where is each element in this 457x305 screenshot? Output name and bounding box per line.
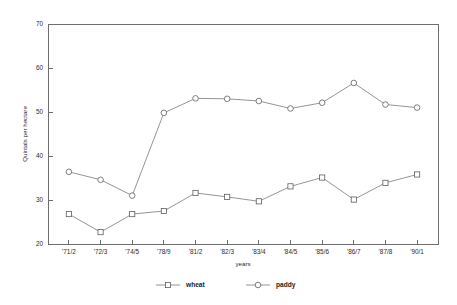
legend-item-paddy[interactable]: paddy (246, 281, 296, 289)
legend-marker-paddy (255, 282, 261, 288)
x-tick-label: '86/7 (347, 248, 361, 255)
y-tick-label: 20 (36, 240, 44, 247)
y-axis: 203040506070 (36, 20, 53, 247)
y-tick-label: 30 (36, 196, 44, 203)
data-point-paddy (98, 177, 104, 183)
x-tick-label: '78/9 (157, 248, 171, 255)
series-line-paddy (69, 83, 417, 196)
y-tick-label: 70 (36, 20, 44, 27)
data-point-wheat (161, 208, 166, 213)
x-axis-title: years (235, 260, 250, 267)
data-point-paddy (383, 102, 389, 108)
x-axis: '71/2'72/3'74/5'78/9'81/2'82/3'83/4'84/5… (62, 240, 424, 255)
y-tick-label: 50 (36, 108, 44, 115)
y-tick-label: 60 (36, 64, 44, 71)
data-point-wheat (351, 197, 356, 202)
legend-marker-wheat (165, 282, 170, 287)
x-tick-label: '87/8 (379, 248, 393, 255)
legend-item-wheat[interactable]: wheat (156, 281, 205, 288)
data-point-paddy (66, 169, 72, 175)
x-tick-label: '83/4 (252, 248, 266, 255)
data-point-paddy (351, 80, 357, 86)
data-point-paddy (129, 193, 135, 199)
legend-label-wheat: wheat (185, 281, 205, 288)
data-point-paddy (224, 96, 230, 102)
series-paddy (66, 80, 420, 198)
plot-frame (48, 24, 438, 244)
series-line-wheat (69, 174, 417, 232)
x-tick-label: '81/2 (189, 248, 203, 255)
x-tick-label: '82/3 (220, 248, 234, 255)
line-chart: 203040506070'71/2'72/3'74/5'78/9'81/2'82… (0, 0, 457, 305)
data-point-paddy (414, 105, 420, 111)
x-tick-label: '74/5 (125, 248, 139, 255)
data-point-paddy (319, 100, 325, 106)
data-point-wheat (130, 211, 135, 216)
data-point-wheat (225, 194, 230, 199)
data-point-wheat (320, 175, 325, 180)
data-point-wheat (66, 211, 71, 216)
legend-label-paddy: paddy (276, 281, 296, 289)
series-wheat (66, 172, 419, 235)
x-tick-label: '72/3 (94, 248, 108, 255)
y-tick-label: 40 (36, 152, 44, 159)
y-axis-title: Quintals per hectare (21, 106, 28, 162)
data-point-paddy (288, 106, 294, 112)
data-point-wheat (415, 172, 420, 177)
legend: wheatpaddy (156, 281, 296, 289)
data-point-wheat (193, 190, 198, 195)
data-point-wheat (288, 184, 293, 189)
data-point-paddy (161, 110, 167, 116)
x-tick-label: '84/5 (284, 248, 298, 255)
data-point-paddy (193, 96, 199, 102)
chart-container: 203040506070'71/2'72/3'74/5'78/9'81/2'82… (0, 0, 457, 305)
axis-frame (48, 24, 438, 244)
data-point-paddy (256, 98, 262, 104)
data-point-wheat (383, 180, 388, 185)
x-tick-label: '85/6 (315, 248, 329, 255)
data-point-wheat (256, 199, 261, 204)
data-point-wheat (98, 230, 103, 235)
x-tick-label: '71/2 (62, 248, 76, 255)
x-tick-label: '90/1 (410, 248, 424, 255)
